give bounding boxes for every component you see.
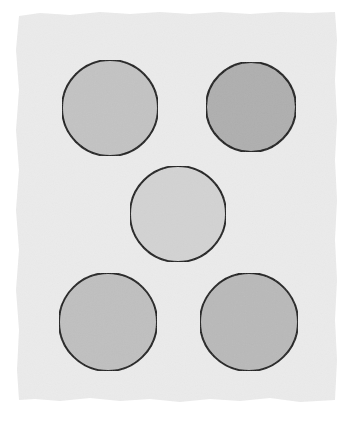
circle-bottom-left [59, 273, 157, 371]
circle-middle [130, 166, 226, 262]
circle-bottom-right [200, 273, 298, 371]
circle-top-left [62, 60, 158, 156]
figure-canvas [0, 0, 343, 426]
circles-diagram [0, 0, 343, 426]
circle-top-right [206, 62, 296, 152]
